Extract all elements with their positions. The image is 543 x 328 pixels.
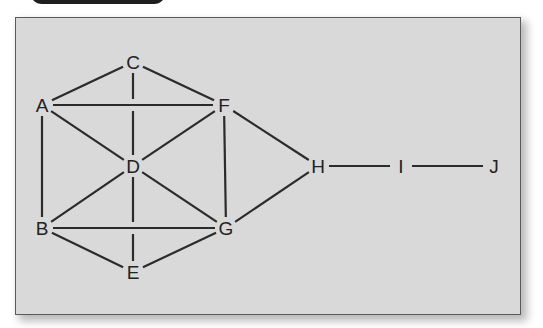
node-J: J: [489, 156, 499, 177]
edge-F-H: [233, 111, 309, 160]
edge-B-E: [52, 233, 123, 267]
graph-edges: [42, 67, 483, 268]
edge-B-D: [51, 172, 124, 222]
edge-A-D: [51, 111, 124, 160]
node-G: G: [219, 218, 234, 239]
edge-D-G: [142, 172, 217, 222]
node-E: E: [127, 262, 140, 283]
graph-canvas: ABCDEFGHIJ: [0, 0, 543, 328]
node-C: C: [126, 52, 140, 73]
edge-G-H: [235, 172, 309, 222]
node-A: A: [36, 95, 49, 116]
edge-F-G: [224, 116, 226, 217]
edge-E-G: [143, 233, 216, 268]
node-H: H: [311, 156, 325, 177]
edge-F-D: [142, 111, 215, 160]
node-F: F: [218, 95, 230, 116]
node-I: I: [398, 156, 403, 177]
node-B: B: [36, 218, 49, 239]
edge-A-C: [52, 67, 123, 101]
node-D: D: [126, 156, 140, 177]
edge-C-F: [143, 67, 214, 101]
